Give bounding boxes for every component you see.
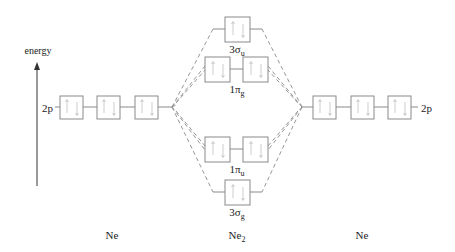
energy-label: energy: [24, 45, 51, 56]
mo-diagram: energy 2p 2p: [0, 0, 455, 252]
mo-3sigma-g-box: [225, 180, 250, 205]
right-2p-orbital-box: [388, 96, 411, 119]
left-2p-orbital-box: [97, 96, 120, 119]
left-atom-2p-level: 2p: [42, 96, 172, 119]
mo-1pi-g-box: [205, 57, 230, 82]
left-atom-label: Ne: [106, 229, 119, 241]
left-2p-label: 2p: [42, 102, 54, 114]
mo-1pi-u-label: 1πu: [229, 163, 244, 178]
right-atom-label: Ne: [356, 229, 369, 241]
right-2p-label: 2p: [421, 102, 433, 114]
mo-3sigma-u-box: [225, 17, 250, 42]
mo-3sigma-g: 3σg: [213, 180, 262, 221]
mo-1pi-u-box: [243, 137, 268, 162]
left-2p-orbital-box: [60, 96, 83, 119]
right-2p-orbital-box: [313, 96, 336, 119]
energy-axis: energy: [24, 45, 51, 186]
mo-1pi-g-label: 1πg: [229, 83, 244, 98]
mo-3sigma-u: 3σu: [213, 17, 262, 58]
right-2p-orbital-box: [351, 96, 374, 119]
mo-1pi-u-box: [205, 137, 230, 162]
mo-3sigma-u-label: 3σu: [229, 43, 244, 58]
mo-3sigma-g-label: 3σg: [229, 206, 244, 221]
molecule-label: Ne2: [229, 229, 246, 244]
mo-1pi-g-box: [243, 57, 268, 82]
left-2p-orbital-box: [135, 96, 158, 119]
mo-1pi-g: 1πg: [205, 57, 268, 98]
right-atom-2p-level: 2p: [302, 96, 433, 119]
mo-1pi-u: 1πu: [205, 137, 268, 178]
